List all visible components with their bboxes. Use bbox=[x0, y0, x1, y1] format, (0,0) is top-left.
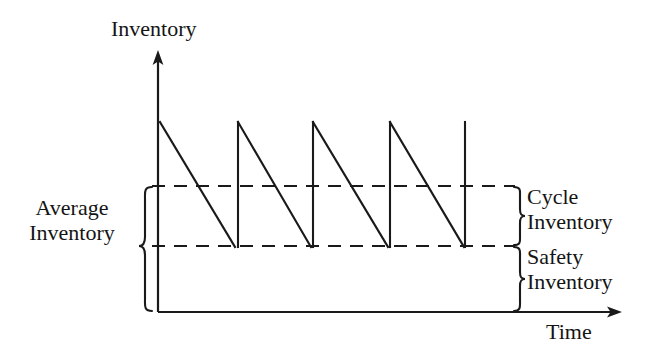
x-axis bbox=[158, 307, 622, 318]
cycle-inventory-label: Cycle Inventory bbox=[527, 185, 613, 234]
cycle-inventory-brace bbox=[514, 187, 525, 245]
cycle-inventory-label-line1: Cycle bbox=[527, 184, 578, 209]
average-inventory-brace bbox=[139, 187, 152, 311]
inventory-sawtooth-curve bbox=[160, 122, 465, 247]
average-inventory-label-line2: Inventory bbox=[8, 221, 136, 246]
safety-inventory-label-line1: Safety bbox=[527, 244, 583, 269]
average-inventory-label-line1: Average bbox=[36, 195, 109, 220]
safety-inventory-label: Safety Inventory bbox=[527, 245, 613, 294]
x-axis-label: Time bbox=[546, 320, 592, 345]
y-axis bbox=[153, 50, 164, 312]
average-inventory-label: Average Inventory bbox=[8, 196, 136, 245]
safety-inventory-label-line2: Inventory bbox=[527, 270, 613, 295]
safety-inventory-brace bbox=[514, 247, 525, 311]
inventory-diagram-figure: Inventory Time Average Inventory Cycle I… bbox=[0, 0, 663, 358]
diagram-canvas bbox=[0, 0, 663, 358]
y-axis-label: Inventory bbox=[111, 17, 197, 42]
cycle-inventory-label-line2: Inventory bbox=[527, 210, 613, 235]
